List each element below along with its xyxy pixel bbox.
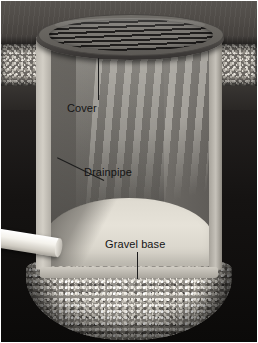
cover-leader-line bbox=[98, 58, 99, 100]
label-gravel-base: Gravel base bbox=[105, 238, 165, 250]
cover-top bbox=[38, 14, 224, 56]
cover-grate bbox=[36, 12, 224, 64]
label-cover: Cover bbox=[67, 102, 97, 114]
gravel-backfill-right bbox=[218, 44, 258, 86]
gravel-base-leader-line bbox=[137, 252, 138, 279]
basin-wall-right-cut bbox=[209, 42, 222, 271]
label-drainpipe: Drainpipe bbox=[84, 166, 132, 178]
cover-highlight bbox=[55, 18, 205, 32]
catch-basin-illustration: Cover Drainpipe Gravel base bbox=[0, 0, 258, 343]
basin-wall-bottom-cut bbox=[40, 267, 218, 278]
